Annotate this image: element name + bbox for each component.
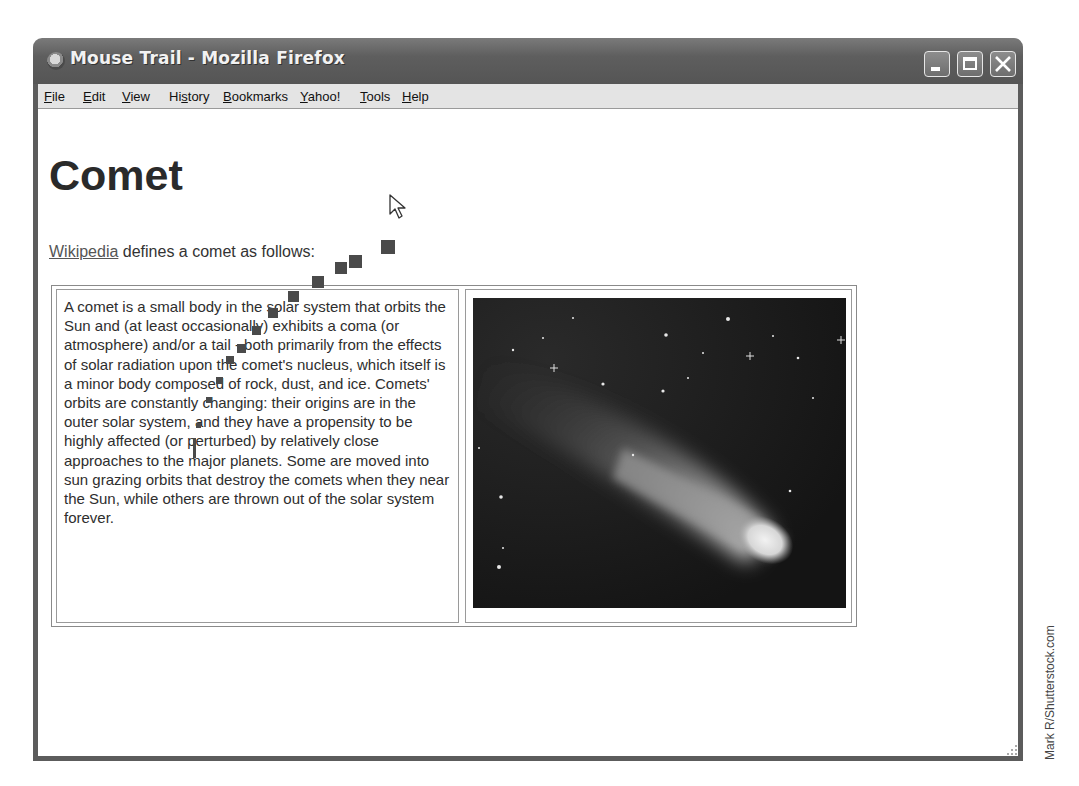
window-frame-bottom	[33, 756, 1023, 761]
window-frame-right	[1018, 84, 1023, 761]
trail-dot	[252, 326, 261, 335]
menu-bar: File Edit View History Bookmarks Yahoo! …	[38, 84, 1018, 109]
trail-dot	[335, 262, 347, 274]
trail-dot	[237, 344, 246, 353]
page-heading: Comet	[49, 151, 183, 200]
intro-text: defines a comet as follows:	[118, 243, 315, 260]
browser-window: Mouse Trail - Mozilla Firefox File Edit …	[33, 38, 1023, 761]
menu-help[interactable]: Help	[402, 89, 429, 104]
menu-edit[interactable]: Edit	[83, 89, 105, 104]
wikipedia-link[interactable]: Wikipedia	[49, 243, 118, 260]
mouse-cursor-icon	[389, 194, 409, 222]
comet-photo-icon	[473, 298, 846, 608]
page-content: Comet Wikipedia defines a comet as follo…	[38, 109, 1018, 756]
intro-paragraph: Wikipedia defines a comet as follows:	[49, 243, 315, 261]
title-bar[interactable]: Mouse Trail - Mozilla Firefox	[33, 38, 1023, 84]
trail-dot	[288, 291, 299, 302]
menu-yahoo[interactable]: Yahoo!	[300, 89, 340, 104]
menu-tools[interactable]: Tools	[360, 89, 390, 104]
trail-dot	[312, 276, 324, 288]
trail-dot	[268, 308, 278, 318]
close-button[interactable]	[990, 51, 1016, 77]
comet-image	[473, 298, 846, 608]
trail-dot	[206, 397, 212, 403]
definition-table: A comet is a small body in the solar sys…	[51, 285, 857, 627]
resize-grip-icon[interactable]	[1006, 744, 1018, 756]
image-credit: Mark R/Shutterstock.com	[1043, 625, 1057, 760]
close-icon	[994, 55, 1012, 73]
trail-dot	[216, 377, 223, 384]
definition-text: A comet is a small body in the solar sys…	[56, 289, 459, 623]
firefox-icon	[47, 52, 65, 70]
window-title: Mouse Trail - Mozilla Firefox	[70, 48, 345, 68]
minimize-button[interactable]	[924, 51, 950, 77]
menu-file[interactable]: File	[44, 89, 65, 104]
menu-view[interactable]: View	[122, 89, 150, 104]
trail-dot	[349, 255, 362, 268]
image-cell	[465, 289, 852, 623]
trail-dot	[226, 356, 234, 364]
menu-history[interactable]: History	[169, 89, 209, 104]
trail-dot	[196, 423, 201, 428]
trail-dot	[193, 438, 196, 458]
menu-bookmarks[interactable]: Bookmarks	[223, 89, 288, 104]
maximize-button[interactable]	[957, 51, 983, 77]
trail-dot	[381, 240, 395, 254]
